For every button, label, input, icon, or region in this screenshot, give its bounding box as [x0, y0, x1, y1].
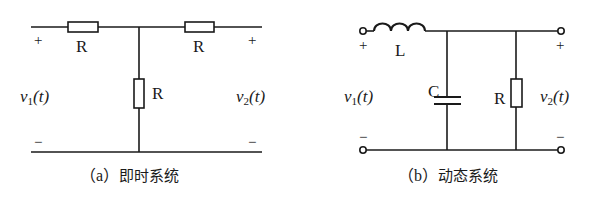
a-label-r-left: R [76, 38, 87, 55]
caption-a: （a）即时系统 [80, 168, 179, 184]
terminal-b-in-top [360, 28, 366, 34]
figure-canvas: + + R R R v1(t) v2(t) − − （a）即时系统 + + L … [0, 0, 592, 205]
b-output-voltage-label: v2(t) [540, 88, 569, 107]
a-output-minus: − [248, 135, 256, 150]
a-output-plus: + [248, 33, 256, 48]
resistor-b-shunt [511, 79, 522, 107]
terminal-b-in-bottom [360, 147, 366, 153]
inductor-b [374, 24, 425, 32]
a-input-voltage-label: v1(t) [20, 88, 49, 107]
b-output-minus: − [556, 130, 564, 145]
a-label-r-right: R [193, 38, 204, 55]
a-output-voltage-label: v2(t) [236, 88, 265, 107]
resistor-a-series-left [68, 22, 98, 32]
terminal-b-out-bottom [558, 147, 564, 153]
a-label-r-shunt: R [152, 85, 163, 102]
b-input-minus: − [359, 130, 367, 145]
resistor-a-series-right [185, 22, 214, 32]
terminal-b-out-top [558, 28, 564, 34]
b-label-c: C [428, 83, 439, 100]
resistor-a-shunt [134, 79, 144, 108]
a-input-plus: + [34, 33, 42, 48]
b-label-l: L [395, 42, 405, 59]
circuit-a-wires [31, 27, 262, 152]
b-output-plus: + [556, 38, 564, 53]
b-input-voltage-label: v1(t) [344, 88, 373, 107]
a-input-minus: − [34, 135, 42, 150]
b-input-plus: + [359, 38, 367, 53]
caption-b: （b）动态系统 [398, 168, 498, 184]
b-label-r: R [494, 90, 505, 107]
